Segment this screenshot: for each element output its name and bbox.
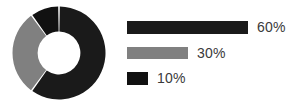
legend-label-10: 10% [157,71,186,85]
legend-item-30[interactable]: 30% [127,43,226,63]
legend-swatch-30 [127,47,188,59]
donut-chart-figure: 60% 30% 10% [0,0,308,106]
legend-swatch-60 [127,21,248,34]
legend-swatch-10 [127,72,148,85]
donut-chart-svg [12,6,106,100]
legend-label-30: 30% [197,46,226,60]
legend-label-60: 60% [257,20,286,34]
legend-item-10[interactable]: 10% [127,68,186,88]
legend-item-60[interactable]: 60% [127,17,286,37]
donut-slice-group [13,7,106,100]
chart-legend: 60% 30% 10% [127,17,308,93]
donut-chart-plot [12,6,106,100]
